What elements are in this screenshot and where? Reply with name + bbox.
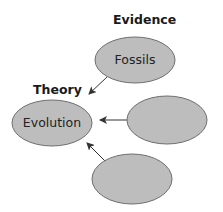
arrow-fossils-to-evolution [89,77,107,94]
node-label-fossils: Fossils [95,52,175,67]
theory-heading: Theory [33,82,82,97]
node-label-evolution: Evolution [12,115,92,130]
node-evidence-blank-1 [127,96,207,144]
concept-map-canvas [0,0,223,212]
node-evidence-blank-2 [92,154,172,204]
arrow-evidence3-to-evolution [87,143,105,161]
evidence-heading: Evidence [113,12,176,27]
